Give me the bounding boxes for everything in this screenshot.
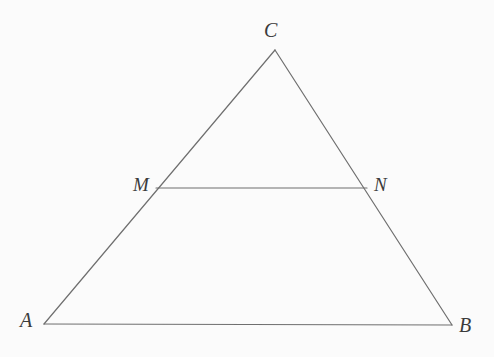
vertex-label-B: B [459, 315, 471, 335]
vertex-label-C: C [264, 20, 277, 40]
vertex-label-M: M [133, 175, 149, 194]
geometry-figure: C M N A B [0, 0, 494, 357]
diagram-background [0, 0, 494, 357]
vertex-label-N: N [374, 175, 387, 194]
triangle-diagram-canvas [0, 0, 494, 357]
vertex-label-A: A [20, 310, 32, 330]
